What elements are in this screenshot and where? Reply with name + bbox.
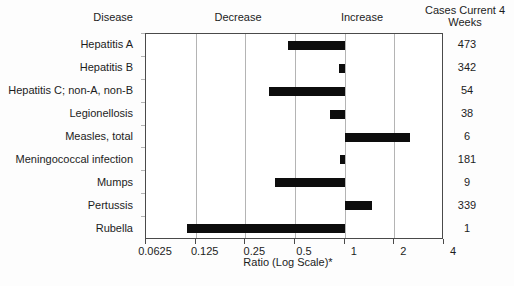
gridline	[295, 34, 296, 238]
disease-column-header: Disease	[0, 11, 133, 23]
plot-area	[145, 33, 443, 239]
x-tick-label: 4	[450, 245, 456, 257]
ratio-bar	[340, 155, 345, 164]
category-tick	[141, 56, 145, 57]
cases-value: 339	[437, 198, 497, 212]
increase-header: Increase	[341, 11, 383, 23]
gridline	[196, 34, 197, 238]
ratio-bar	[345, 201, 372, 210]
x-tick-mark	[244, 239, 245, 244]
x-tick-mark	[145, 239, 146, 244]
disease-label: Legionellosis	[0, 106, 133, 120]
cases-value: 342	[437, 60, 497, 74]
category-tick	[141, 79, 145, 80]
cases-value: 1	[437, 221, 497, 235]
ratio-bar	[288, 41, 345, 50]
ratio-bar	[330, 110, 345, 119]
category-tick	[141, 193, 145, 194]
ratio-bar	[345, 133, 410, 142]
x-tick-mark	[195, 239, 196, 244]
category-tick	[141, 125, 145, 126]
x-tick-label: 0.0625	[138, 245, 172, 257]
x-tick-mark	[393, 239, 394, 244]
category-tick	[141, 216, 145, 217]
x-tick-mark	[294, 239, 295, 244]
cases-value: 9	[437, 175, 497, 189]
disease-label: Hepatitis A	[0, 37, 133, 51]
x-tick-mark	[344, 239, 345, 244]
x-tick-mark	[443, 239, 444, 244]
cases-header-line2: Weeks	[425, 17, 505, 29]
disease-label: Hepatitis B	[0, 60, 133, 74]
cases-value: 6	[437, 129, 497, 143]
disease-label: Pertussis	[0, 198, 133, 212]
cases-value: 54	[437, 83, 497, 97]
x-tick-label: 1	[351, 245, 357, 257]
cases-value: 38	[437, 106, 497, 120]
gridline	[245, 34, 246, 238]
disease-label: Mumps	[0, 175, 133, 189]
ratio-bar	[269, 87, 344, 96]
ratio-bar	[339, 64, 345, 73]
cases-value: 473	[437, 37, 497, 51]
disease-label: Measles, total	[0, 129, 133, 143]
disease-label: Hepatitis C; non-A, non-B	[0, 83, 133, 97]
cases-header-line1: Cases Current 4	[425, 5, 505, 17]
category-tick	[141, 33, 145, 34]
decrease-header: Decrease	[214, 11, 261, 23]
ratio-bar	[275, 178, 344, 187]
cases-value: 181	[437, 152, 497, 166]
cases-column-header: Cases Current 4 Weeks	[425, 5, 505, 28]
category-tick	[141, 170, 145, 171]
x-tick-label: 2	[400, 245, 406, 257]
x-tick-label: 0.125	[191, 245, 219, 257]
disease-label: Meningococcal infection	[0, 152, 133, 166]
category-tick	[141, 147, 145, 148]
ratio-bar	[187, 224, 345, 233]
x-axis-label: Ratio (Log Scale)*	[243, 256, 332, 268]
disease-label: Rubella	[0, 221, 133, 235]
category-tick	[141, 102, 145, 103]
chart: Disease Decrease Increase Cases Current …	[0, 0, 514, 286]
